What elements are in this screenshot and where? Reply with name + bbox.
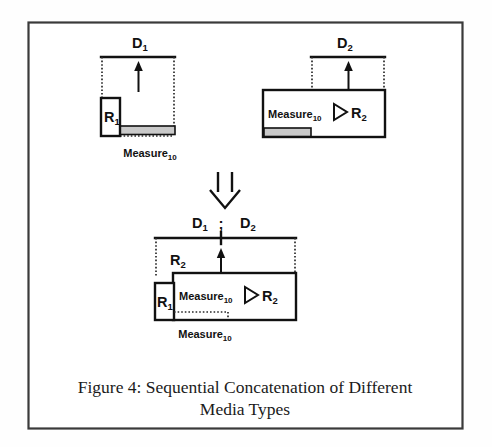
d1-label-subscript: 1 [143,42,149,53]
result-r1-label-letter: R [157,294,168,310]
d2-expression-r2-letter: R [351,105,362,121]
d1-r1-label-letter: R [104,109,115,125]
d2-label-subscript: 2 [348,42,353,53]
result-d2-label-letter: D [240,215,250,231]
figure-svg: D1 R1 Measure10 [0,0,492,447]
result-separator-label: ; [219,215,224,232]
result-d2-label-subscript: 2 [251,222,256,233]
d1-measure-label-word: Measure [123,147,168,159]
result-d1-label-letter: D [192,215,202,231]
result-d1-label-subscript: 1 [203,222,209,233]
d2-expression-measure-word: Measure [268,108,313,120]
result-r1-label-subscript: 1 [167,301,173,312]
figure-container: D1 R1 Measure10 [0,0,492,447]
result-measure-label-word: Measure [178,328,223,340]
result-expression-measure-word: Measure [179,290,224,302]
d2-label-letter: D [337,35,347,51]
figure-caption-line-1: Figure 4: Sequential Concatenation of Di… [78,377,413,397]
d1-measure-label-subscript: 10 [168,153,177,162]
figure-caption-line-2: Media Types [200,399,291,419]
result-r2-region-subscript: 2 [180,259,185,270]
d1-measure-bar [120,126,175,135]
d1-label-letter: D [132,35,142,51]
result-expression-r2-subscript: 2 [272,295,277,306]
result-expression-r2-letter: R [262,288,273,304]
d2-expression-measure-subscript: 10 [313,114,322,123]
result-expression-measure-subscript: 10 [224,296,233,305]
d1-r1-label-subscript: 1 [114,116,120,127]
result-measure-label-subscript: 10 [223,334,232,343]
d2-measure-bar [264,128,311,137]
result-r2-region-letter: R [170,252,181,268]
d2-expression-r2-subscript: 2 [361,112,366,123]
